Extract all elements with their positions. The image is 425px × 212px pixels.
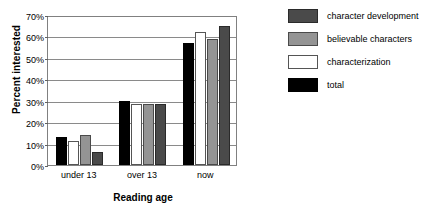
chart-legend: character developmentbelievable characte… [288, 8, 421, 100]
bar[interactable] [56, 137, 67, 165]
y-axis-title: Percent interested [11, 10, 22, 130]
legend-swatch [288, 9, 318, 23]
legend-item[interactable]: total [288, 77, 421, 93]
y-axis-tick-label: 70% [26, 13, 44, 22]
bar[interactable] [207, 39, 218, 165]
y-axis-tick-label: 60% [26, 34, 44, 43]
bar[interactable] [143, 104, 154, 165]
bar[interactable] [131, 104, 142, 165]
legend-label: believable characters [327, 34, 412, 44]
x-axis-tick-label: under 13 [47, 170, 110, 180]
x-axis-title: Reading age [47, 192, 239, 203]
bar-group [175, 17, 238, 165]
legend-label: character development [327, 11, 419, 21]
y-axis-tick-label: 10% [26, 141, 44, 150]
bar[interactable] [183, 43, 194, 165]
legend-item[interactable]: characterization [288, 54, 421, 70]
bar[interactable] [80, 135, 91, 165]
bar[interactable] [195, 32, 206, 165]
legend-label: characterization [327, 57, 391, 67]
legend-swatch [288, 55, 318, 69]
bar-group [48, 17, 111, 165]
y-axis-tick-label: 40% [26, 77, 44, 86]
bar[interactable] [68, 141, 79, 165]
chart-container: Percent interested Reading age 0%10%20%3… [0, 0, 425, 212]
x-axis-tick-label: over 13 [110, 170, 173, 180]
y-axis-tick-mark [45, 166, 48, 167]
bar[interactable] [219, 26, 230, 165]
legend-item[interactable]: believable characters [288, 31, 421, 47]
bar-group [111, 17, 174, 165]
y-axis-tick-label: 20% [26, 120, 44, 129]
x-axis-tick-label: now [174, 170, 237, 180]
legend-label: total [327, 80, 344, 90]
y-axis-tick-label: 50% [26, 55, 44, 64]
plot-area: 0%10%20%30%40%50%60%70% [47, 16, 237, 166]
legend-item[interactable]: character development [288, 8, 421, 24]
y-axis-tick-label: 30% [26, 98, 44, 107]
y-axis-tick-label: 0% [31, 163, 44, 172]
legend-swatch [288, 32, 318, 46]
bar[interactable] [119, 101, 130, 165]
bar[interactable] [92, 152, 103, 165]
bar[interactable] [155, 104, 166, 165]
legend-swatch [288, 78, 318, 92]
